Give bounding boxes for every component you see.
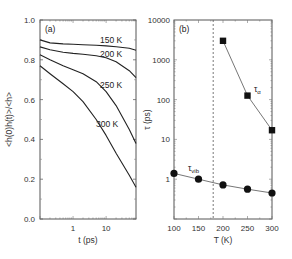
series-line: [223, 41, 272, 130]
y-tick-label: 100: [157, 96, 171, 105]
panel-b: 110100100010000100150200250300T (K)τ (ps…: [142, 16, 279, 245]
y-axis-label: τ (ps): [142, 109, 152, 130]
square-marker: [220, 38, 226, 44]
y-tick-label: 1: [166, 175, 171, 184]
curve-250k: [40, 55, 136, 144]
x-axis-label: t (ps): [78, 235, 98, 245]
x-tick-label: 150: [192, 224, 206, 233]
x-tick-label: 10: [102, 224, 111, 233]
curve-label: 150 K: [100, 35, 123, 45]
circle-marker: [219, 181, 226, 188]
panel-label: (a): [45, 24, 56, 34]
y-tick-label: 1.0: [24, 16, 36, 25]
curve-label: 200 K: [100, 49, 123, 59]
y-tick-label: 1000: [152, 56, 170, 65]
tau-alpha-label: τα: [254, 84, 261, 95]
circle-marker: [244, 186, 251, 193]
x-tick-label: 300: [265, 224, 279, 233]
x-tick-label: 100: [167, 224, 181, 233]
panel-a: 0.00.20.40.60.81.0110t (ps)<h(0)h(t)>/<h…: [4, 16, 136, 245]
y-tick-label: 0.2: [24, 175, 36, 184]
x-tick-label: 1: [71, 224, 76, 233]
y-tick-label: 10000: [148, 16, 171, 25]
y-tick-label: 0.0: [24, 215, 36, 224]
y-tick-label: 10: [161, 135, 170, 144]
x-axis-label: T (K): [214, 235, 233, 245]
figure: 0.00.20.40.60.81.0110t (ps)<h(0)h(t)>/<h…: [0, 0, 292, 259]
y-tick-label: 0.6: [24, 96, 36, 105]
y-axis-label: <h(0)h(t)>/<h>: [4, 92, 14, 147]
x-tick-label: 250: [241, 224, 255, 233]
curve-label: 250 K: [100, 80, 123, 90]
y-tick-label: 0.8: [24, 56, 36, 65]
square-marker: [269, 127, 275, 133]
circle-marker: [195, 176, 202, 183]
tau-vib-label: τvib: [188, 163, 200, 174]
circle-marker: [268, 189, 275, 196]
y-tick-label: 0.4: [24, 135, 36, 144]
plot-frame: [174, 20, 272, 219]
panel-label: (b): [179, 24, 190, 34]
square-marker: [244, 92, 250, 98]
circle-marker: [170, 170, 177, 177]
x-tick-label: 200: [216, 224, 230, 233]
curve-label: 300 K: [96, 119, 119, 129]
